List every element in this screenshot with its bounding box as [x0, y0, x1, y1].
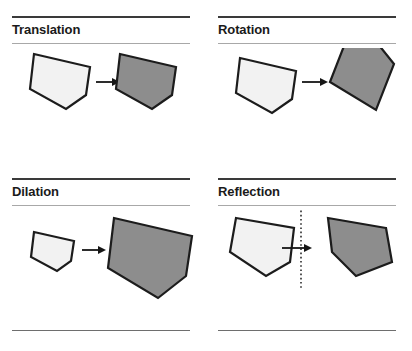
panel-rule-top [218, 178, 396, 180]
panel-rule-under-title [12, 43, 190, 44]
gray-pentagon-image [116, 54, 176, 109]
light-pentagon-preimage [236, 58, 296, 113]
panel-rule-top [12, 16, 190, 18]
gray-pentagon-image [330, 48, 394, 110]
light-pentagon-preimage [230, 218, 294, 276]
diagram-rotation [218, 48, 408, 168]
light-pentagon-preimage [30, 54, 90, 109]
panel-translation: Translation [12, 12, 202, 172]
light-pentagon-preimage [31, 232, 74, 271]
panel-rotation: Rotation [218, 12, 408, 172]
panel-rule-foot [218, 330, 396, 331]
panel-title-dilation: Dilation [12, 183, 59, 201]
gray-pentagon-image [328, 218, 392, 276]
transformation-arrow [302, 78, 328, 86]
panel-dilation: Dilation [12, 174, 202, 334]
figure-root: Translation Rotation [0, 0, 412, 351]
diagram-translation [12, 48, 202, 168]
panel-rule-top [218, 16, 396, 18]
panel-rule-under-title [218, 205, 396, 206]
panel-title-reflection: Reflection [218, 183, 280, 201]
panel-title-translation: Translation [12, 21, 80, 39]
diagram-dilation [12, 210, 202, 330]
transformation-arrow [82, 246, 106, 254]
gray-pentagon-image [108, 218, 192, 298]
panel-rule-foot [12, 330, 190, 331]
panel-rule-under-title [12, 205, 190, 206]
panel-title-rotation: Rotation [218, 21, 270, 39]
panel-rule-top [12, 178, 190, 180]
panel-reflection: Reflection [218, 174, 408, 334]
panel-rule-under-title [218, 43, 396, 44]
diagram-reflection [218, 210, 408, 330]
